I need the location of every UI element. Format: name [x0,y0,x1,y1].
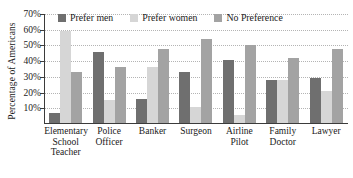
legend-item[interactable]: Prefer women [130,12,197,23]
x-axis-tick-label-line: Pilot [218,137,261,148]
x-axis-tick-label: AirlinePilot [218,126,261,158]
x-axis-tick-label: ElementarySchoolTeacher [44,126,87,158]
y-axis-tick-label: 10% [0,103,41,113]
y-axis-tick-label: 60% [0,25,41,35]
x-axis-tick-label-line: Lawyer [305,126,348,137]
x-axis-tick-label-line: Officer [88,137,131,148]
y-axis-tick-label: 40% [0,56,41,66]
y-axis-tick-label: 70% [0,9,41,19]
bar-chart: Percentage of Americans 10%20%30%40%50%6… [0,0,353,178]
x-axis-tick-label: PoliceOfficer [88,126,131,158]
legend-item[interactable]: No Preference [214,12,282,23]
x-axis-tick-label-line: Airline [218,126,261,137]
x-axis-tick-label-line: Doctor [261,137,304,148]
y-axis-tick-label: 30% [0,72,41,82]
legend-label: Prefer men [70,12,113,23]
legend-swatch-icon [58,14,66,22]
chart-legend: Prefer menPrefer womenNo Preference [58,12,283,23]
plot-area [44,14,348,124]
axis-lines [44,14,348,124]
x-axis-tick-label: Lawyer [305,126,348,158]
x-axis-tick-label-line: Banker [131,126,174,137]
x-axis-tick-label: Banker [131,126,174,158]
x-axis-tick-labels: ElementarySchoolTeacherPoliceOfficerBank… [44,126,348,158]
legend-swatch-icon [130,14,138,22]
x-axis-tick-label: FamilyDoctor [261,126,304,158]
x-axis-tick-label: Surgeon [174,126,217,158]
x-axis-tick-label-line: Surgeon [174,126,217,137]
y-axis-tick-label: 20% [0,88,41,98]
legend-swatch-icon [214,14,222,22]
x-axis-tick-label-line: Elementary [44,126,87,137]
legend-label: No Preference [226,12,282,23]
legend-label: Prefer women [142,12,197,23]
x-axis-tick-label-line: School [44,137,87,148]
legend-item[interactable]: Prefer men [58,12,113,23]
y-axis-tick-label: 50% [0,40,41,50]
x-axis-tick-label-line: Police [88,126,131,137]
x-axis-tick-label-line: Family [261,126,304,137]
x-axis-tick-label-line: Teacher [44,147,87,158]
